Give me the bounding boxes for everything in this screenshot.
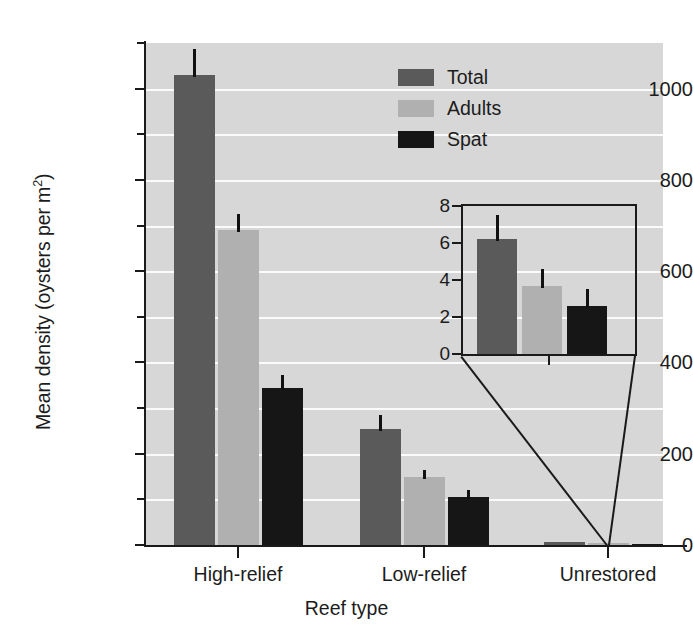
y-tick-minor — [137, 407, 144, 409]
y-tick-label: 200 — [575, 442, 693, 465]
inset-y-tick — [452, 279, 461, 281]
legend-label-spat: Spat — [447, 130, 487, 150]
error-bar-total-high-relief — [193, 49, 196, 77]
x-tick-label: Unrestored — [560, 563, 656, 586]
inset-y-tick-label: 8 — [390, 195, 450, 217]
chart-figure: Mean density (oysters per m2) 0200400600… — [0, 0, 693, 641]
bar-total-low-relief — [360, 429, 401, 545]
x-axis-title: Reef type — [0, 597, 693, 620]
y-tick-label: 800 — [575, 168, 693, 191]
inset-x-tick — [548, 356, 550, 365]
legend-item-total: Total — [398, 62, 501, 93]
bar-adults-high-relief — [218, 230, 259, 545]
y-axis-line — [144, 41, 146, 547]
error-bar-total-low-relief — [379, 415, 382, 431]
x-tick — [237, 547, 239, 558]
legend-item-adults: Adults — [398, 93, 501, 124]
legend-label-adults: Adults — [447, 99, 501, 119]
x-tick-label: High-relief — [194, 563, 283, 586]
y-tick-minor — [137, 225, 144, 227]
error-bar-adults-high-relief — [237, 214, 240, 232]
y-axis-title: Mean density (oysters per m2) — [31, 92, 55, 512]
legend-label-total: Total — [447, 68, 488, 88]
inset-y-tick-label: 2 — [390, 306, 450, 328]
error-bar-adults-low-relief — [423, 470, 426, 479]
inset-y-tick — [452, 353, 461, 355]
y-tick-major — [135, 88, 144, 90]
y-tick-major — [135, 544, 144, 546]
y-tick-major — [135, 179, 144, 181]
y-tick-label: 1000 — [575, 77, 693, 100]
inset-y-tick — [452, 205, 461, 207]
y-axis-title-main: Mean density (oysters per m — [32, 187, 54, 430]
bar-total-high-relief — [174, 75, 215, 545]
y-tick-minor — [137, 316, 144, 318]
inset-y-tick — [452, 242, 461, 244]
y-tick-major — [135, 270, 144, 272]
inset-y-tick-label: 4 — [390, 269, 450, 291]
y-tick-minor — [137, 133, 144, 135]
inset-y-tick — [452, 316, 461, 318]
inset-border — [461, 204, 637, 356]
legend-swatch-spat — [398, 131, 434, 148]
bar-spat-high-relief — [262, 388, 303, 545]
legend-swatch-total — [398, 69, 434, 86]
legend: Total Adults Spat — [398, 62, 501, 155]
bar-adults-low-relief — [404, 477, 445, 545]
y-axis-title-superscript: 2 — [31, 180, 45, 187]
x-tick — [607, 547, 609, 558]
y-tick-major — [135, 453, 144, 455]
y-axis-title-tail: ) — [32, 173, 54, 179]
y-tick-minor — [137, 42, 144, 44]
x-tick-label: Low-relief — [382, 563, 467, 586]
x-tick — [423, 547, 425, 558]
y-tick-major — [135, 361, 144, 363]
error-bar-spat-high-relief — [281, 375, 284, 389]
y-tick-minor — [137, 498, 144, 500]
inset-y-tick-label: 6 — [390, 232, 450, 254]
y-tick-label: 0 — [575, 534, 693, 557]
bar-spat-low-relief — [448, 497, 489, 545]
legend-swatch-adults — [398, 100, 434, 117]
error-bar-spat-low-relief — [467, 490, 470, 499]
inset-y-tick-label: 0 — [390, 343, 450, 365]
legend-item-spat: Spat — [398, 124, 501, 155]
